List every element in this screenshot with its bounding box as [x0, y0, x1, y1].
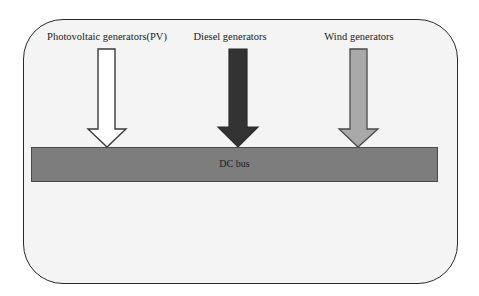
diesel-arrow-icon [218, 49, 258, 147]
wind-arrow-icon [339, 49, 378, 147]
pv-arrow-icon [88, 49, 126, 147]
dc-bus-label: DC bus [219, 158, 249, 169]
dc-bus: DC bus [31, 147, 438, 182]
